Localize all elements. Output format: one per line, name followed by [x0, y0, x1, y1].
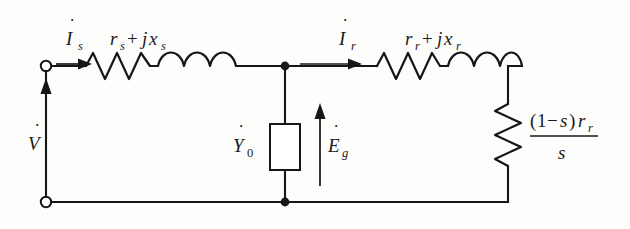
load-numerator-one: 1	[537, 110, 547, 131]
stator-resistor	[86, 53, 158, 79]
stator-impedance-r-sub: s	[120, 39, 125, 53]
circuit-diagram-canvas: I ˙ s r s + j x s V ˙ I ˙ r r r +	[0, 0, 630, 229]
wire-rotor-to-load-corner	[508, 66, 522, 104]
rotor-current-subscript: r	[351, 39, 356, 53]
stator-current-dot: ˙	[69, 15, 75, 36]
stator-current-subscript: s	[78, 39, 83, 53]
label-shunt-admittance: Y ˙ 0	[233, 121, 253, 160]
rotor-resistor	[377, 53, 448, 79]
shunt-admittance-subscript: 0	[247, 146, 253, 160]
label-source-voltage: V ˙	[28, 120, 42, 154]
stator-impedance-j: j	[139, 28, 147, 49]
label-stator-current: I ˙ s	[65, 15, 83, 53]
junction-dot-bottom	[281, 198, 290, 207]
label-rotor-impedance: r r + j x r	[405, 28, 461, 53]
stator-impedance-x: x	[148, 28, 158, 49]
rotor-current-arrow-head	[348, 59, 362, 70]
voltage-arrow-head	[41, 78, 52, 94]
load-numerator-paren-open: (	[530, 110, 536, 132]
label-air-gap-emf: E ˙ g	[327, 121, 348, 160]
rotor-impedance-x-sub: r	[456, 39, 461, 53]
emf-arrow-head	[315, 103, 326, 119]
rotor-impedance-j: j	[434, 28, 442, 49]
load-numerator-r-sub: r	[588, 121, 593, 135]
rotor-impedance-plus: +	[422, 28, 433, 49]
load-numerator-paren-close: )	[569, 110, 575, 132]
input-terminal-bottom[interactable]	[41, 197, 51, 207]
load-numerator-s: s	[560, 110, 567, 131]
load-numerator-r: r	[578, 110, 586, 131]
rotor-inductor	[448, 53, 522, 67]
load-denominator-s: s	[558, 142, 565, 163]
label-stator-impedance: r s + j x s	[110, 28, 166, 53]
source-voltage-dot: ˙	[34, 120, 40, 141]
label-mechanical-load: ( 1 − s ) r r s	[530, 110, 598, 163]
circuit-schematic: I ˙ s r s + j x s V ˙ I ˙ r r r +	[0, 0, 630, 229]
rotor-impedance-x: x	[443, 28, 453, 49]
shunt-admittance-box	[270, 124, 300, 170]
rotor-impedance-r-sub: r	[415, 39, 420, 53]
load-numerator-minus: −	[547, 110, 558, 131]
air-gap-emf-subscript: g	[342, 146, 348, 160]
stator-impedance-r: r	[110, 28, 118, 49]
label-rotor-current: I ˙ r	[338, 15, 356, 53]
stator-impedance-x-sub: s	[161, 39, 166, 53]
stator-inductor	[158, 53, 236, 67]
shunt-admittance-dot: ˙	[238, 121, 244, 142]
load-resistor	[495, 104, 521, 166]
air-gap-emf-dot: ˙	[333, 121, 339, 142]
rotor-current-dot: ˙	[342, 15, 348, 36]
rotor-impedance-r: r	[405, 28, 413, 49]
stator-impedance-plus: +	[127, 28, 138, 49]
input-terminal-top[interactable]	[41, 61, 51, 71]
